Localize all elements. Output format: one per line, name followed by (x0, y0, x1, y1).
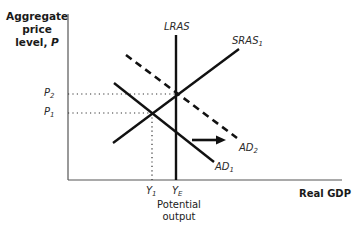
sras1-label: SRAS1 (232, 36, 263, 48)
lras-label-text: LRAS (164, 21, 190, 32)
sras-label-base: SRAS (232, 35, 258, 46)
y1-label: Y1 (146, 186, 157, 198)
y1-label-sub: 1 (152, 190, 156, 198)
p1-label-sub: 1 (50, 111, 54, 119)
p2-label: P2 (44, 88, 55, 100)
ad2-label-base: AD (239, 142, 254, 153)
ad1-curve (114, 83, 214, 162)
lras-label: LRAS (164, 22, 190, 32)
shift-arrow-icon (192, 136, 226, 145)
ad2-label-sub: 2 (254, 147, 258, 155)
ad1-label-base: AD (215, 161, 230, 172)
potential-output-line1: Potential (156, 199, 202, 211)
ad2-label: AD2 (239, 143, 258, 155)
p2-label-sub: 2 (50, 92, 54, 100)
ad2-curve (126, 55, 237, 138)
potential-output-label: Potential output (156, 199, 202, 223)
x-axis-label: Real GDP (299, 189, 351, 199)
ad1-label: AD1 (215, 162, 234, 174)
ye-label-sub: E (178, 190, 182, 198)
ye-label: YE (172, 186, 183, 198)
sras-label-sub: 1 (258, 40, 262, 48)
p1-label: P1 (44, 107, 55, 119)
ad1-label-sub: 1 (230, 166, 234, 174)
potential-output-line2: output (156, 211, 202, 223)
x-axis-label-text: Real GDP (299, 188, 351, 199)
